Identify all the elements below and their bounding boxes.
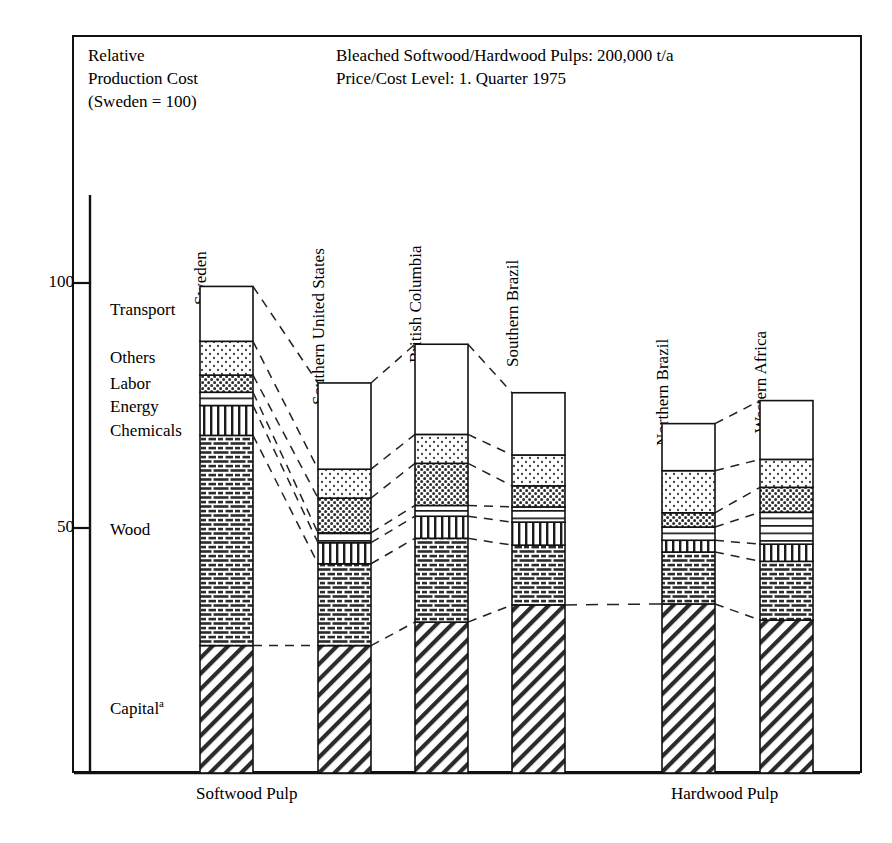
bar-segment [662, 527, 715, 540]
connector-line [715, 540, 760, 544]
bar-segment [200, 375, 253, 392]
bar-segment [512, 507, 565, 522]
bar-segment [760, 459, 813, 487]
bar-segment [318, 383, 371, 469]
bar-segment [200, 286, 253, 341]
connector-line [253, 286, 318, 383]
connector-line [371, 622, 415, 646]
bar-segment [415, 463, 468, 505]
bar-segment [415, 516, 468, 538]
connector-line [371, 434, 415, 469]
connector-line [468, 505, 512, 506]
bar-segment [415, 434, 468, 463]
bar-segment [512, 486, 565, 507]
connector-line [468, 605, 512, 622]
bar-segment [512, 393, 565, 455]
connector-line [253, 392, 318, 533]
bar-segment [200, 392, 253, 405]
connector-line [253, 375, 318, 498]
bar-segment [662, 552, 715, 604]
connector-line [715, 487, 760, 512]
bar-segment [415, 622, 468, 773]
connector-line [468, 344, 512, 393]
connector-line [468, 463, 512, 486]
connector-line [715, 512, 760, 527]
bar-segment [760, 401, 813, 460]
connector-line [565, 604, 662, 605]
connector-line [468, 538, 512, 545]
connector-line [371, 505, 415, 532]
bar-segment [318, 469, 371, 498]
connector-line [253, 406, 318, 543]
bar-segment [415, 344, 468, 434]
connector-line [253, 341, 318, 469]
connector-line [715, 604, 760, 620]
bar-segment [760, 561, 813, 620]
connector-line [715, 401, 760, 424]
bar-segment [200, 406, 253, 436]
bar-segment [200, 341, 253, 375]
connector-line [371, 344, 415, 383]
bar-segment [318, 543, 371, 564]
bar-segment [662, 604, 715, 773]
bar-segment [662, 540, 715, 552]
chart-svg [0, 0, 892, 843]
connector-line [371, 463, 415, 498]
bar-segment [415, 538, 468, 622]
bar-segment [760, 620, 813, 773]
connector-line [715, 552, 760, 561]
bar-segment [760, 512, 813, 544]
bar-segment [318, 498, 371, 533]
connector-line [253, 435, 318, 563]
bar-segment [662, 513, 715, 527]
bar-segment [662, 471, 715, 513]
bars-group [200, 286, 813, 773]
bar-segment [760, 544, 813, 561]
bar-segment [512, 455, 565, 486]
bar-segment [512, 605, 565, 773]
bar-segment [512, 522, 565, 545]
bar-segment [318, 564, 371, 646]
chart-root: Relative Production Cost (Sweden = 100) … [0, 0, 892, 843]
bar-segment [318, 646, 371, 773]
connector-line [468, 516, 512, 522]
bar-segment [662, 424, 715, 471]
connector-line [371, 538, 415, 563]
connector-line [468, 434, 512, 455]
connector-line [715, 459, 760, 470]
bar-segment [318, 533, 371, 543]
bar-segment [512, 545, 565, 605]
bar-segment [200, 646, 253, 773]
bar-segment [760, 487, 813, 512]
bar-segment [200, 435, 253, 645]
bar-segment [415, 505, 468, 516]
